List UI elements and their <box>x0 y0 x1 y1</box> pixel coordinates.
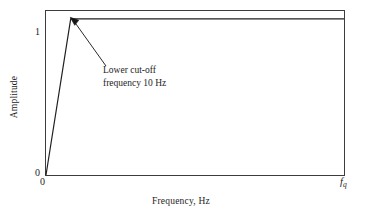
x-tick-label-nyquist: fq <box>340 176 347 189</box>
y-axis-label: Amplitude <box>9 62 19 132</box>
x-axis-label: Frequency, Hz <box>152 196 210 206</box>
nyquist-subscript: q <box>343 180 347 189</box>
cutoff-annotation: Lower cut-off frequency 10 Hz <box>103 64 166 90</box>
x-tick-label-zero: 0 <box>40 176 45 187</box>
plot-frame <box>46 11 345 176</box>
amplitude-response-plot <box>0 0 367 220</box>
figure-container: Amplitude Frequency, Hz 1 0 0 fq Lower c… <box>0 0 367 220</box>
cutoff-annotation-line-2: frequency 10 Hz <box>103 77 166 90</box>
y-tick-label-one: 1 <box>35 26 40 37</box>
cutoff-annotation-line-1: Lower cut-off <box>103 64 166 77</box>
